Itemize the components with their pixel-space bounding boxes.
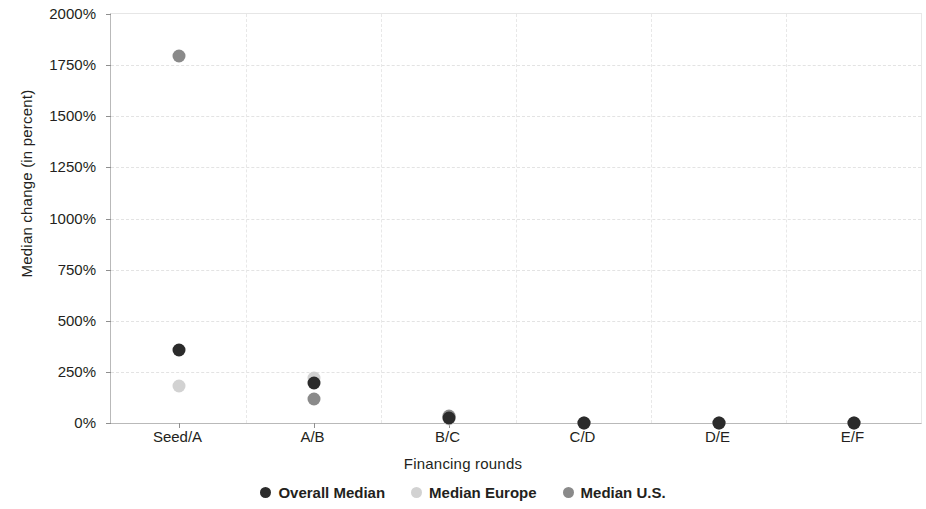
x-axis-tick-label: E/F bbox=[841, 428, 864, 445]
legend-marker-icon bbox=[411, 487, 422, 498]
y-axis-tick-label: 500% bbox=[58, 311, 96, 328]
gridline-vertical bbox=[786, 14, 787, 423]
legend-label: Median U.S. bbox=[581, 484, 666, 501]
y-axis-tick-mark bbox=[106, 423, 111, 424]
data-point bbox=[442, 411, 455, 424]
y-axis-tick-mark bbox=[106, 270, 111, 271]
data-point bbox=[172, 49, 185, 62]
y-axis-tick-label: 1500% bbox=[49, 107, 96, 124]
y-axis-tick-label: 1750% bbox=[49, 56, 96, 73]
y-axis-tick-mark bbox=[106, 167, 111, 168]
chart-legend: Overall MedianMedian EuropeMedian U.S. bbox=[0, 484, 926, 501]
gridline-vertical bbox=[381, 14, 382, 423]
scatter-chart: Median change (in percent) 0%250%500%750… bbox=[0, 0, 926, 509]
data-point bbox=[172, 379, 185, 392]
x-axis-tick-label: B/C bbox=[435, 428, 460, 445]
x-axis-title: Financing rounds bbox=[0, 455, 926, 472]
legend-marker-icon bbox=[260, 487, 271, 498]
gridline-vertical bbox=[651, 14, 652, 423]
legend-item[interactable]: Median Europe bbox=[411, 484, 537, 501]
gridline-vertical bbox=[246, 14, 247, 423]
x-axis-tick-label: D/E bbox=[705, 428, 730, 445]
x-axis-tick-labels: Seed/AA/BB/CC/DD/EE/F bbox=[110, 428, 922, 450]
gridline-vertical bbox=[516, 14, 517, 423]
y-axis-tick-mark bbox=[106, 321, 111, 322]
y-axis-tick-labels: 0%250%500%750%1000%1250%1500%1750%2000% bbox=[0, 0, 104, 440]
y-axis-tick-label: 750% bbox=[58, 260, 96, 277]
legend-item[interactable]: Median U.S. bbox=[563, 484, 666, 501]
x-axis-tick-label: Seed/A bbox=[153, 428, 202, 445]
y-axis-tick-mark bbox=[106, 65, 111, 66]
y-axis-tick-label: 250% bbox=[58, 362, 96, 379]
data-point bbox=[307, 376, 320, 389]
y-axis-tick-label: 1000% bbox=[49, 209, 96, 226]
y-axis-tick-mark bbox=[106, 219, 111, 220]
y-axis-tick-label: 0% bbox=[74, 414, 96, 431]
y-axis-tick-mark bbox=[106, 372, 111, 373]
data-point bbox=[172, 343, 185, 356]
legend-label: Overall Median bbox=[278, 484, 385, 501]
data-point bbox=[307, 392, 320, 405]
legend-item[interactable]: Overall Median bbox=[260, 484, 385, 501]
x-axis-tick-label: A/B bbox=[300, 428, 324, 445]
legend-label: Median Europe bbox=[429, 484, 537, 501]
plot-area bbox=[110, 13, 922, 424]
y-axis-tick-label: 1250% bbox=[49, 158, 96, 175]
x-axis-tick-label: C/D bbox=[570, 428, 596, 445]
y-axis-tick-label: 2000% bbox=[49, 5, 96, 22]
legend-marker-icon bbox=[563, 487, 574, 498]
y-axis-tick-mark bbox=[106, 14, 111, 15]
y-axis-tick-mark bbox=[106, 116, 111, 117]
